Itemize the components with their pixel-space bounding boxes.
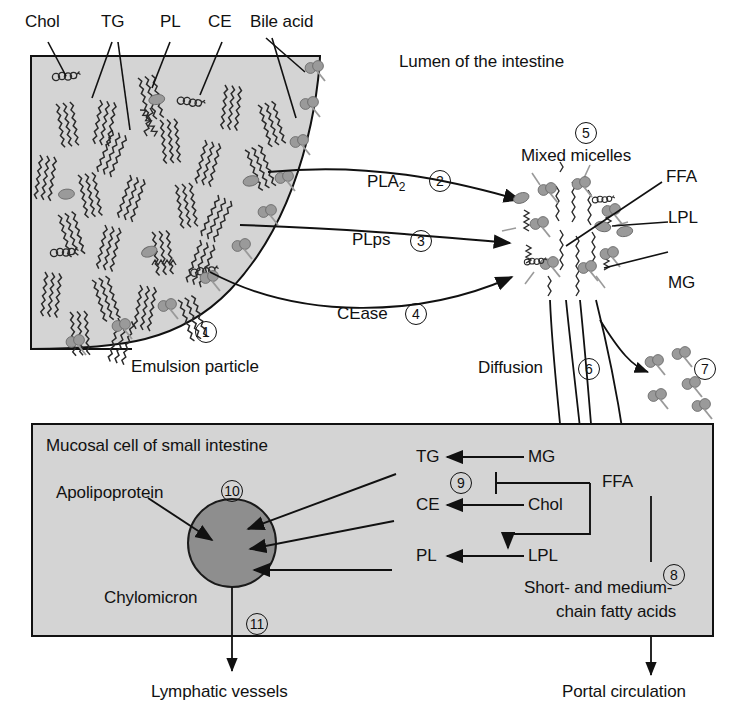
label-lumen: Lumen of the intestine [399, 52, 564, 72]
label-chylomicron: Chylomicron [104, 588, 197, 608]
label-lpl-substrate: LPL [528, 546, 558, 566]
step-number-6: 6 [578, 358, 600, 380]
step-number-11: 11 [246, 613, 268, 635]
pla2-subscript: 2 [399, 180, 406, 194]
step-number-5: 5 [575, 122, 597, 144]
label-apolipoprotein: Apolipoprotein [56, 483, 163, 503]
step-number-7: 7 [694, 358, 716, 380]
step-number-4: 4 [405, 303, 427, 325]
label-pl: PL [160, 12, 181, 32]
label-ce: CE [208, 12, 231, 32]
label-mg-substrate: MG [528, 447, 555, 467]
label-portal-circulation: Portal circulation [562, 682, 686, 702]
label-pl-product: PL [416, 546, 437, 566]
chylomicron-circle [188, 499, 276, 587]
label-lpl-micelle: LPL [668, 208, 698, 228]
label-mucosal-cell: Mucosal cell of small intestine [46, 436, 268, 456]
label-diffusion: Diffusion [478, 358, 543, 378]
label-tg-product: TG [416, 447, 439, 467]
pla2-name: PLA [367, 172, 399, 191]
label-ce-product: CE [416, 495, 439, 515]
label-chol: Chol [25, 12, 60, 32]
step-number-10: 10 [221, 480, 243, 502]
step-number-1: 1 [195, 321, 217, 343]
label-chol-substrate: Chol [528, 495, 563, 515]
label-lymphatic-vessels: Lymphatic vessels [151, 682, 288, 702]
mixed-micelle-shape [502, 162, 633, 296]
lipid-digestion-diagram: Chol TG PL CE Bile acid Lumen of the int… [0, 0, 737, 720]
step-number-3: 3 [410, 230, 432, 252]
label-ffa-micelle: FFA [666, 167, 697, 187]
label-emulsion-particle: Emulsion particle [131, 357, 259, 377]
label-short-chain-line1: Short- and medium- [524, 578, 672, 598]
step-number-9: 9 [450, 472, 472, 494]
label-short-chain-line2: chain fatty acids [556, 602, 676, 622]
step-number-2: 2 [429, 170, 451, 192]
label-cease: CEase [337, 304, 388, 324]
label-pla2: PLA2 [367, 172, 405, 195]
label-ffa-mucosal: FFA [602, 472, 633, 492]
label-mg-micelle: MG [668, 273, 695, 293]
label-bile-acid: Bile acid [250, 12, 313, 32]
label-plps: PLps [352, 230, 390, 250]
label-mixed-micelles: Mixed micelles [521, 146, 631, 166]
label-tg: TG [101, 12, 124, 32]
